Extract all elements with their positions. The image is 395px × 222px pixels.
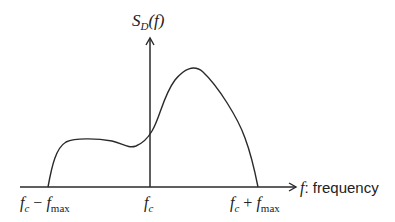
spectrum-curve — [48, 68, 258, 187]
doppler-spectrum-diagram: SD(f) f: frequency fc − fmax fc fc + fma… — [0, 0, 395, 222]
x-axis-label: f: frequency — [300, 179, 379, 197]
y-axis-label: SD(f) — [132, 11, 165, 32]
tick-label-fc-plus-fmax: fc + fmax — [230, 194, 280, 214]
tick-label-fc: fc — [144, 194, 153, 214]
tick-label-fc-minus-fmax: fc − fmax — [20, 194, 70, 214]
